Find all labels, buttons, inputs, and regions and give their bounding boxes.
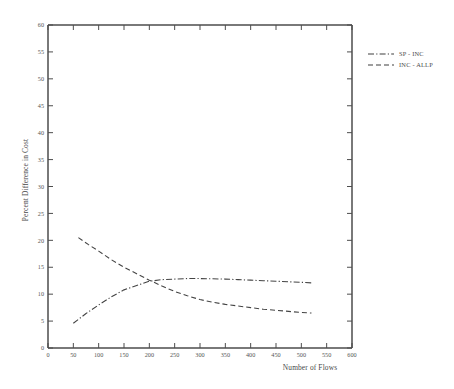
y-tick-label: 5 bbox=[41, 317, 44, 324]
y-tick-label: 10 bbox=[38, 290, 44, 297]
x-tick-label: 200 bbox=[145, 351, 154, 358]
x-tick-label: 300 bbox=[195, 351, 204, 358]
legend-label-2: INC - ALLP bbox=[399, 61, 433, 68]
y-tick-label: 55 bbox=[38, 48, 44, 55]
x-tick-label: 450 bbox=[271, 351, 280, 358]
y-tick-label: 40 bbox=[38, 129, 44, 136]
x-tick-label: 600 bbox=[347, 351, 356, 358]
y-tick-label: 15 bbox=[38, 263, 44, 270]
legend-label-1: SP - INC bbox=[399, 50, 424, 57]
chart-figure: 050100150200250300350400450500550600 051… bbox=[0, 0, 454, 389]
y-tick-label: 20 bbox=[38, 237, 44, 244]
y-tick-label: 35 bbox=[38, 156, 44, 163]
x-tick-label: 100 bbox=[94, 351, 103, 358]
y-tick-label: 25 bbox=[38, 210, 44, 217]
percent-difference-line-chart: 050100150200250300350400450500550600 051… bbox=[0, 0, 454, 389]
x-tick-label: 350 bbox=[221, 351, 230, 358]
y-axis-title: Percent Difference in Cost bbox=[21, 138, 30, 221]
y-tick-label: 50 bbox=[38, 75, 44, 82]
x-tick-label: 50 bbox=[70, 351, 76, 358]
x-tick-label: 150 bbox=[119, 351, 128, 358]
x-tick-label: 500 bbox=[297, 351, 306, 358]
x-axis-title: Number of Flows bbox=[283, 363, 337, 372]
x-tick-label: 550 bbox=[322, 351, 331, 358]
y-tick-label: 60 bbox=[38, 21, 44, 28]
y-tick-label: 45 bbox=[38, 102, 44, 109]
y-tick-label: 30 bbox=[38, 183, 44, 190]
chart-background bbox=[0, 0, 454, 389]
y-tick-label: 0 bbox=[41, 344, 44, 351]
x-tick-label: 250 bbox=[170, 351, 179, 358]
x-tick-label: 400 bbox=[246, 351, 255, 358]
x-tick-label: 0 bbox=[46, 351, 49, 358]
